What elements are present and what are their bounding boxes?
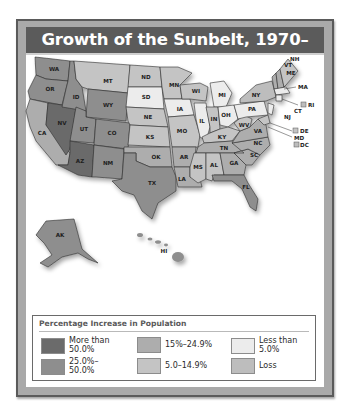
- svg-text:WV: WV: [239, 122, 250, 128]
- svg-text:IL: IL: [199, 118, 205, 124]
- svg-text:VT: VT: [284, 62, 292, 68]
- svg-text:MN: MN: [169, 82, 180, 88]
- svg-text:NE: NE: [144, 114, 153, 120]
- svg-text:GA: GA: [230, 160, 240, 166]
- legend: Percentage Increase in Population More t…: [32, 315, 316, 381]
- svg-text:AZ: AZ: [76, 158, 84, 164]
- svg-text:MT: MT: [103, 78, 113, 84]
- state-ak: [36, 219, 98, 267]
- legend-item-less-than-5: Less than 5.0%: [231, 337, 297, 354]
- map-panel: Growth of the Sunbelt, 1970–1980: [26, 27, 324, 387]
- svg-text:IN: IN: [211, 116, 218, 122]
- svg-text:AK: AK: [56, 232, 65, 238]
- svg-text:UT: UT: [80, 126, 89, 132]
- svg-text:MO: MO: [177, 128, 188, 134]
- svg-text:WA: WA: [49, 66, 60, 72]
- legend-swatch: [41, 338, 65, 354]
- svg-text:MS: MS: [193, 164, 203, 170]
- svg-text:NC: NC: [254, 140, 263, 146]
- legend-item-more-than-50: More than 50.0%: [41, 337, 110, 354]
- svg-text:AL: AL: [210, 162, 218, 168]
- svg-text:SD: SD: [142, 94, 151, 100]
- legend-swatch: [137, 358, 161, 374]
- legend-swatch: [137, 337, 161, 353]
- svg-text:OK: OK: [151, 154, 161, 160]
- state-nj: [268, 103, 274, 115]
- svg-text:IA: IA: [177, 106, 184, 112]
- svg-text:WI: WI: [192, 88, 200, 94]
- svg-text:MI: MI: [218, 92, 226, 98]
- svg-text:PA: PA: [248, 106, 257, 112]
- legend-title: Percentage Increase in Population: [39, 319, 186, 328]
- svg-text:WY: WY: [103, 102, 114, 108]
- map-frame: Growth of the Sunbelt, 1970–1980: [16, 19, 334, 397]
- svg-text:FL: FL: [242, 184, 250, 190]
- svg-text:DE: DE: [300, 128, 309, 134]
- svg-text:NM: NM: [103, 160, 114, 166]
- legend-swatch: [41, 359, 65, 375]
- legend-divider: [39, 331, 309, 332]
- svg-text:DC: DC: [300, 142, 309, 148]
- legend-swatch: [231, 338, 255, 354]
- svg-text:KS: KS: [146, 134, 154, 140]
- svg-text:MD: MD: [294, 135, 305, 141]
- svg-text:ME: ME: [286, 70, 296, 76]
- state-ct: [276, 95, 282, 101]
- us-map: WA OR CA NV ID MT WY UT CO AZ NM ND SD N…: [26, 55, 324, 305]
- svg-text:KY: KY: [218, 134, 227, 140]
- svg-text:CT: CT: [294, 108, 302, 114]
- svg-text:OR: OR: [45, 86, 55, 92]
- legend-item-loss: Loss: [231, 358, 277, 374]
- svg-text:LA: LA: [178, 176, 187, 182]
- svg-text:VA: VA: [254, 128, 263, 134]
- svg-text:SC: SC: [250, 152, 258, 158]
- svg-text:CA: CA: [38, 130, 47, 136]
- svg-text:TX: TX: [148, 180, 157, 186]
- svg-text:OH: OH: [221, 112, 231, 118]
- legend-item-25-to-50: 25.0%– 50.0%: [41, 358, 98, 375]
- svg-text:ID: ID: [73, 94, 80, 100]
- legend-item-5-to-14-9: 5.0–14.9%: [137, 358, 207, 374]
- svg-text:HI: HI: [161, 248, 168, 254]
- svg-text:MA: MA: [298, 84, 309, 90]
- svg-text:AR: AR: [180, 154, 189, 160]
- svg-text:NJ: NJ: [284, 114, 291, 121]
- svg-text:NV: NV: [57, 120, 67, 126]
- svg-text:ND: ND: [141, 74, 151, 80]
- legend-swatch: [231, 358, 255, 374]
- svg-text:TN: TN: [220, 145, 229, 151]
- state-fl: [212, 175, 258, 211]
- svg-text:NY: NY: [252, 92, 262, 98]
- svg-text:CO: CO: [108, 130, 117, 136]
- legend-item-15-to-24-9: 15%–24.9%: [137, 337, 212, 353]
- svg-text:RI: RI: [308, 102, 314, 108]
